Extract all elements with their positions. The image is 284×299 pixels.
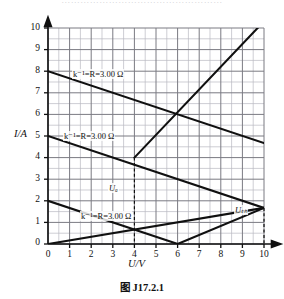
x-tick-label-7: 7 [189,249,209,259]
x-tick-label-0: 0 [38,249,58,259]
y-tick-label-10: 10 [16,22,40,32]
y-tick-label-3: 3 [16,173,40,183]
x-axis-label: U/V [128,258,145,269]
y-tick-label-9: 9 [16,43,40,53]
annotation-u-a: Uₐ [108,183,119,193]
x-tick-label-5: 5 [146,249,166,259]
figure-caption: 图 J17.2.1 [0,279,284,294]
x-tick-label-2: 2 [81,249,101,259]
y-tick-label-1: 1 [16,216,40,226]
y-tick-label-2: 2 [16,194,40,204]
y-tick-label-6: 6 [16,108,40,118]
x-tick-label-6: 6 [168,249,188,259]
figure-root: …………………………………………… [0,0,284,299]
annotation-resistance-upper: k⁻¹=R=3.00 Ω [72,69,124,79]
y-tick-label-4: 4 [16,151,40,161]
annotation-u-th: Uₜₕ [234,205,248,215]
y-tick-label-7: 7 [16,86,40,96]
chart-svg [0,0,284,272]
y-tick-label-8: 8 [16,65,40,75]
y-axis-label: I/A [14,128,27,139]
plot-area: 10 9 8 7 6 5 4 3 2 1 0 0 1 2 3 4 5 6 7 8… [0,0,284,272]
x-tick-label-10: 10 [254,249,274,259]
annotation-resistance-middle: k⁻¹=R=3.00 Ω [63,131,115,141]
annotation-resistance-lower: k⁻¹=R=3.00 Ω [80,211,132,221]
x-tick-label-3: 3 [103,249,123,259]
y-tick-label-0: 0 [16,237,40,247]
x-tick-label-8: 8 [211,249,231,259]
x-tick-label-9: 9 [232,249,252,259]
x-tick-label-1: 1 [60,249,80,259]
